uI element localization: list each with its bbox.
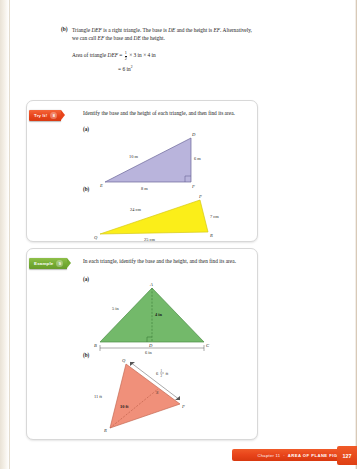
dimension-25cm: 25 cm [144, 237, 155, 242]
vertex-label-p: P [181, 404, 185, 409]
textbook-page: (b) Triangle DEF is a right triangle. Th… [0, 0, 357, 469]
area-equation-lead: Area of triangle DEF = [72, 53, 122, 59]
area-result: = 6 in [118, 66, 131, 72]
example-badge-number: 9 [56, 260, 63, 267]
dimension-side-5in: 5 in [112, 306, 120, 311]
vertex-label-b: B [94, 343, 97, 348]
page-number-box: 127 [337, 446, 357, 465]
segment-de: DE [168, 27, 175, 33]
page-number: 127 [343, 453, 352, 459]
segment-ef-2: EF [98, 35, 105, 41]
example-part-a-label: (a) [83, 276, 89, 282]
vertex-label-a: A [149, 282, 153, 287]
figure-example-b: Q S P R 11 ft 10 ft 6 1 2 ft [92, 356, 222, 432]
top-continuation-block: (b) Triangle DEF is a right triangle. Th… [72, 26, 257, 74]
figure-try-it-a: E D F 10 m 6 m 8 m [95, 130, 210, 192]
area-equation-rest: × 3 in × 4 in [129, 53, 156, 59]
area-equation-line2: = 6 in2 [118, 63, 257, 74]
fraction-denominator: 2 [125, 56, 127, 61]
example-instruction: In each triangle, identify the base and … [83, 257, 255, 265]
vertex-label-f: F [191, 184, 195, 189]
try-it-badge-label: Try It! [34, 113, 47, 118]
vertex-label-c: C [206, 343, 210, 348]
dimension-height-10ft: 10 ft [120, 404, 129, 409]
footer-separator: · [282, 453, 286, 458]
try-it-part-a-label: (a) [83, 126, 89, 132]
vertex-label-e: E [99, 183, 103, 188]
example-part-b-label: (b) [83, 352, 89, 358]
dimension-24cm: 24 cm [130, 207, 141, 212]
dimension-num-1: 1 [161, 369, 163, 373]
area-result-exponent: 2 [131, 65, 133, 69]
dimension-base-6in: 6 in [145, 350, 153, 354]
figure-try-it-b: Q P R 24 cm 7 cm 25 cm [92, 192, 222, 242]
area-equation: Area of triangle DEF = 1 2 × 3 in × 4 in… [72, 51, 257, 74]
one-half-fraction: 1 2 [125, 51, 127, 61]
vertex-label-q: Q [122, 358, 126, 363]
dimension-side-11ft: 11 ft [94, 394, 103, 399]
dimension-height-4in: 4 in [155, 312, 163, 317]
figure-example-a: A B D C 5 in 4 in 6 in [92, 282, 222, 354]
example-badge-label: Example [34, 261, 53, 266]
dimension-6-half-ft: 6 1 2 ft [156, 369, 169, 378]
dimension-whole-6: 6 [156, 371, 159, 376]
dimension-7cm: 7 cm [210, 214, 219, 219]
triangle-name-def: DEF [91, 27, 101, 33]
try-it-instruction: Identify the base and the height of each… [83, 109, 255, 117]
vertex-label-r: R [209, 233, 213, 238]
vertex-label-d: D [191, 132, 196, 137]
spine-divider [9, 0, 10, 469]
try-it-part-b-label: (b) [83, 186, 89, 192]
triangle-shape-def [105, 138, 191, 182]
book-spine-edge [0, 0, 9, 469]
segment-de-2: DE [134, 35, 141, 41]
item-label-b: (b) [61, 26, 68, 32]
vertex-label-d: D [148, 343, 153, 348]
triangle-shape-qpr [100, 200, 208, 234]
try-it-badge[interactable]: Try It! 8 [29, 110, 61, 121]
dimension-den-2: 2 [161, 374, 163, 378]
item-b-paragraph: Triangle DEF is a right triangle. The ba… [72, 26, 257, 42]
example-badge[interactable]: Example 9 [29, 258, 67, 269]
dimension-unit-ft: ft [166, 371, 169, 376]
dimension-hypotenuse-10m: 10 m [129, 154, 138, 159]
vertex-label-p: P [198, 194, 202, 199]
vertex-label-r: R [103, 428, 107, 432]
vertex-label-q: Q [94, 235, 98, 240]
try-it-badge-number: 8 [50, 112, 57, 119]
segment-ef: EF [214, 27, 221, 33]
footer-chapter: Chapter 11 [257, 453, 280, 458]
dimension-base-8m: 8 m [141, 186, 148, 191]
dimension-height-6m: 6 m [194, 156, 201, 161]
area-equation-line1: Area of triangle DEF = 1 2 × 3 in × 4 in [72, 51, 257, 61]
